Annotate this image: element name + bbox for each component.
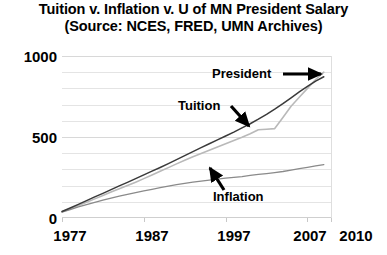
tuition-arrow-icon (231, 106, 249, 126)
chart-figure: Tuition v. Inflation v. U of MN Presiden… (0, 0, 387, 255)
annotation-label-president: President (212, 67, 271, 80)
annotation-layer (0, 0, 387, 255)
inflation-arrow-icon (210, 168, 224, 190)
annotation-label-inflation: Inflation (213, 190, 264, 203)
annotation-label-tuition: Tuition (178, 99, 220, 112)
